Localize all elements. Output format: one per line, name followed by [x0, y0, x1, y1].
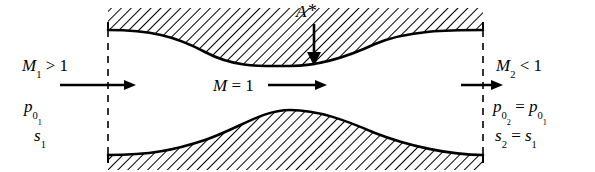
- inlet-mach-label: M1 > 1: [22, 57, 68, 74]
- outlet-entropy-label: s2 = s1: [495, 127, 537, 144]
- inlet-stagnation-pressure-label: p01: [24, 98, 42, 118]
- throat-area-label: A *: [296, 3, 317, 21]
- throat-mach-label: M = 1: [213, 77, 254, 94]
- throat-flow-arrow: [268, 80, 327, 90]
- nozzle-diagram: M1 > 1 p01 s1 M = 1 A * M2 < 1 p02 = p01…: [0, 0, 595, 172]
- lower-wall-solid: [100, 104, 492, 170]
- inlet-entropy-label: s1: [34, 127, 46, 144]
- inlet-flow-arrow: [60, 80, 136, 90]
- outlet-stagnation-pressure-label: p02 = p01: [493, 98, 547, 118]
- outlet-mach-label: M2 < 1: [496, 57, 542, 74]
- outlet-flow-arrow: [461, 80, 503, 90]
